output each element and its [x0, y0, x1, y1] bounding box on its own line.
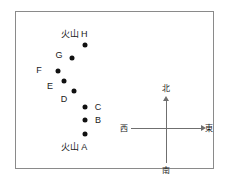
compass-label-west: 西: [120, 124, 128, 133]
compass-north-arrowhead: [163, 96, 169, 101]
compass-horizontal-axis: [131, 128, 201, 129]
map-frame: 火山 H G F E D C B 火山 A 北 南 西 東: [15, 11, 214, 169]
compass-label-south: 南: [162, 166, 170, 175]
compass-label-east: 東: [205, 124, 213, 133]
compass-label-north: 北: [162, 84, 170, 93]
compass-rose: 北 南 西 東: [16, 12, 213, 168]
volcano-map-figure: 火山 H G F E D C B 火山 A 北 南 西 東: [0, 0, 227, 180]
compass-vertical-axis: [166, 100, 167, 163]
